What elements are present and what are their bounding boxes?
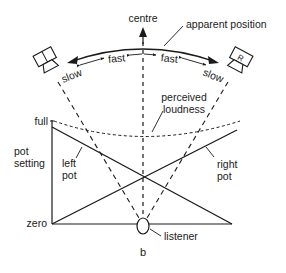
left-speaker-to-listener (58, 82, 139, 218)
right-slow-label: slow (202, 66, 226, 85)
listener-head-icon (137, 218, 149, 234)
right-fast-label: fast (160, 51, 178, 65)
perceived-label-2: loudness (163, 103, 205, 115)
listener-label: listener (164, 230, 198, 242)
apparent-position-leader (164, 26, 183, 46)
right-pot-leader (206, 147, 214, 157)
perceived-loudness-leader (152, 111, 163, 132)
right-pot-label-2: pot (217, 170, 232, 182)
right-pot-label-1: right (217, 158, 238, 170)
pan-pot-diagram: centre apparent position fast fast slow … (0, 0, 286, 273)
left-speaker-icon (33, 47, 60, 74)
arc-left-arrowhead-icon (67, 56, 78, 64)
pot-setting-label-2: setting (14, 157, 45, 169)
zero-label: zero (27, 217, 48, 229)
apparent-position-label: apparent position (186, 18, 267, 30)
perceived-label-1: perceived (161, 91, 207, 103)
listener-leader (150, 229, 161, 236)
right-speaker-icon: R (226, 47, 253, 74)
left-pot-leader (76, 147, 82, 158)
left-pot-label-1: left (62, 157, 76, 169)
left-pot-line (52, 127, 232, 224)
arc-right-arrowhead-icon (208, 56, 219, 64)
centre-arrow-icon (139, 27, 147, 44)
full-label: full (35, 115, 48, 127)
left-slow-label: slow (60, 66, 84, 85)
pot-setting-label-1: pot (14, 145, 29, 157)
centre-label: centre (128, 12, 157, 24)
right-pot-line (52, 130, 237, 224)
left-pot-label-2: pot (62, 169, 77, 181)
figure-label: b (140, 246, 146, 258)
left-fast-label: fast (108, 51, 126, 65)
perceived-loudness-curve (54, 121, 240, 137)
